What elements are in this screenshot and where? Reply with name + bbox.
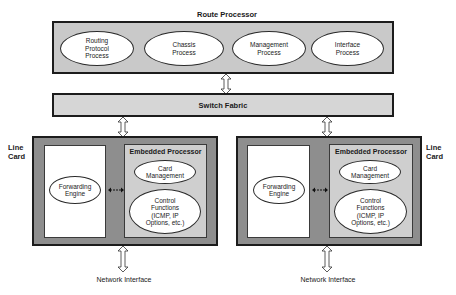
routing-protocol-process: Routing Protocol Process (60, 31, 134, 66)
internal-bidirectional-arrow-icon (312, 187, 328, 193)
line-card-2-label: Line Card (426, 143, 448, 161)
forwarding-engine-label: Forwarding Engine (260, 183, 298, 198)
embedded-processor: Embedded Processor Card Management Contr… (329, 144, 413, 238)
switch-fabric-box: Switch Fabric (52, 93, 394, 117)
chassis-process: Chassis Process (144, 31, 224, 66)
fabric-linecard2-bidirectional-arrow-icon (320, 117, 334, 137)
linecard2-network-bidirectional-arrow-icon (320, 246, 334, 272)
rp-fabric-bidirectional-arrow-icon (219, 74, 233, 94)
control-functions-label: Control Functions (ICMP, IP Options, etc… (144, 197, 186, 227)
control-functions: Control Functions (ICMP, IP Options, etc… (334, 189, 407, 234)
forwarding-panel: Forwarding Engine (247, 145, 310, 238)
forwarding-engine: Forwarding Engine (253, 176, 305, 204)
embedded-processor-title: Embedded Processor (125, 148, 206, 156)
line-card-2: Forwarding Engine Embedded Processor Car… (236, 136, 422, 246)
management-process: Management Process (232, 31, 306, 66)
embedded-processor: Embedded Processor Card Management Contr… (124, 144, 207, 238)
switch-fabric-label: Switch Fabric (199, 101, 248, 110)
interface-process: Interface Process (311, 31, 384, 66)
network-interface-2-label: Network Interface (288, 276, 368, 284)
forwarding-engine: Forwarding Engine (49, 176, 101, 204)
card-management: Card Management (339, 160, 401, 184)
card-management-label: Card Management (348, 165, 392, 180)
fabric-linecard1-bidirectional-arrow-icon (116, 117, 130, 137)
card-management: Card Management (134, 160, 196, 184)
route-processor-title: Route Processor (172, 11, 282, 19)
control-functions: Control Functions (ICMP, IP Options, etc… (129, 189, 201, 234)
card-management-label: Card Management (143, 165, 187, 180)
embedded-processor-title: Embedded Processor (330, 148, 412, 156)
network-interface-1-label: Network Interface (84, 276, 164, 284)
interface-process-label: Interface Process (328, 41, 368, 56)
control-functions-label: Control Functions (ICMP, IP Options, etc… (350, 197, 392, 227)
line-card-1-label: Line Card (8, 143, 30, 161)
management-process-label: Management Process (244, 41, 294, 56)
chassis-process-label: Chassis Process (164, 41, 204, 56)
line-card-1: Forwarding Engine Embedded Processor Car… (32, 136, 218, 246)
route-processor-box: Routing Protocol Process Chassis Process… (52, 21, 394, 74)
forwarding-engine-label: Forwarding Engine (56, 183, 94, 198)
internal-bidirectional-arrow-icon (108, 187, 124, 193)
forwarding-panel: Forwarding Engine (44, 145, 106, 238)
linecard1-network-bidirectional-arrow-icon (116, 246, 130, 272)
routing-protocol-process-label: Routing Protocol Process (77, 37, 117, 60)
